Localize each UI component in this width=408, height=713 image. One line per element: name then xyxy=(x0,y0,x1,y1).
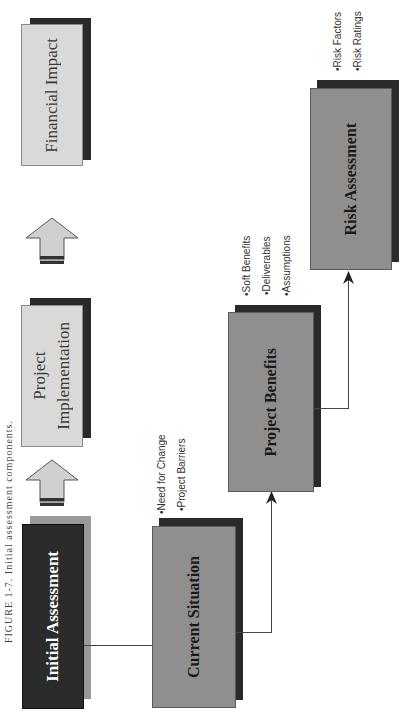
connector-line xyxy=(84,645,154,646)
bullet-item: •Soft Benefits xyxy=(240,226,254,306)
connector-line xyxy=(348,277,349,409)
connector-line xyxy=(271,496,272,633)
current-situation-bullets: •Need for Change •Project Barriers xyxy=(155,432,195,517)
arrowhead-icon xyxy=(265,491,278,505)
financial-impact-box: Financial Impact xyxy=(21,24,83,166)
bullet-item: •Deliverables xyxy=(260,226,274,306)
bullet-item: •Project Barriers xyxy=(175,432,189,517)
bullet-item: •Risk Factors xyxy=(331,4,345,79)
connector-line xyxy=(314,408,349,409)
financial-impact-label: Financial Impact xyxy=(42,38,62,153)
connector-line xyxy=(236,632,272,633)
risk-assessment-bullets: •Risk Factors •Risk Ratings xyxy=(331,4,381,79)
project-benefits-box: Project Benefits xyxy=(228,312,314,492)
current-situation-box: Current Situation xyxy=(152,526,236,708)
current-situation-label: Current Situation xyxy=(185,556,203,678)
bullet-item: •Risk Ratings xyxy=(351,4,365,79)
bullet-item: •Need for Change xyxy=(155,432,169,517)
initial-assessment-box: Initial Assessment xyxy=(22,524,84,709)
up-arrow-icon xyxy=(24,458,80,510)
project-implementation-box: Project Implementation xyxy=(21,305,83,447)
risk-assessment-label: Risk Assessment xyxy=(342,123,360,235)
project-benefits-label: Project Benefits xyxy=(262,348,280,457)
bullet-item: •Assumptions xyxy=(280,226,294,306)
arrowhead-icon xyxy=(342,271,355,285)
figure-caption: FIGURE 1-7. Initial assessment component… xyxy=(3,420,14,643)
project-implementation-label-line1: Project xyxy=(28,322,52,430)
initial-assessment-label: Initial Assessment xyxy=(43,551,63,682)
project-implementation-label-line2: Implementation xyxy=(52,322,76,430)
risk-assessment-box: Risk Assessment xyxy=(310,88,392,270)
project-benefits-bullets: •Soft Benefits •Deliverables •Assumption… xyxy=(240,226,300,306)
up-arrow-icon xyxy=(24,216,80,268)
